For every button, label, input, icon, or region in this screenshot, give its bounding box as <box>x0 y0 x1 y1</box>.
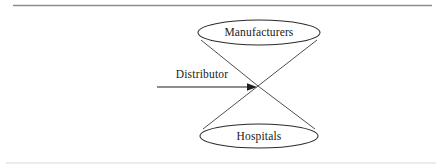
manufacturers-label: Manufacturers <box>224 26 293 38</box>
bowtie-distribution-diagram: Manufacturers Hospitals Distributor <box>0 0 438 166</box>
node-manufacturers[interactable]: Manufacturers <box>198 20 320 45</box>
hospitals-label: Hospitals <box>237 130 282 143</box>
node-hospitals[interactable]: Hospitals <box>200 124 318 148</box>
cone-line-top-right <box>258 40 317 86</box>
distributor-arrow[interactable] <box>157 83 257 91</box>
distributor-label: Distributor <box>176 68 229 80</box>
diagram-canvas: Manufacturers Hospitals Distributor <box>0 0 438 166</box>
cone-line-bottom-left <box>203 86 258 129</box>
cone-line-bottom-right <box>258 86 315 129</box>
cone-lines-group <box>201 40 317 129</box>
